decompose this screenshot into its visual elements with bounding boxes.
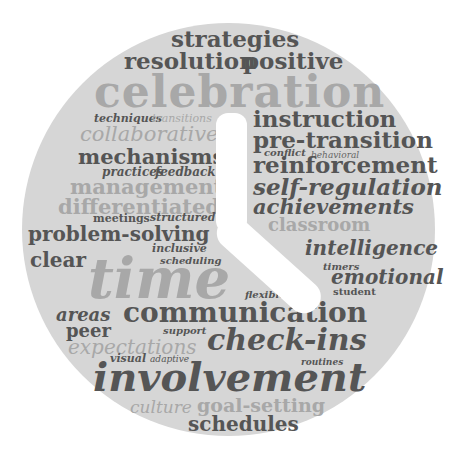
word-collaborative: collaborative xyxy=(80,124,218,145)
word-mechanisms: mechanisms xyxy=(78,146,224,167)
word-classroom: classroom xyxy=(268,216,370,234)
word-schedules: schedules xyxy=(188,414,299,434)
word-culture: culture xyxy=(130,399,192,416)
word-clear: clear xyxy=(30,250,86,270)
word-problem-solving: problem-solving xyxy=(28,224,210,244)
word-check-ins: check-ins xyxy=(207,325,367,355)
word-emotional: emotional xyxy=(331,267,444,287)
word-involvement: involvement xyxy=(93,357,366,397)
word-intelligence: intelligence xyxy=(305,238,438,258)
